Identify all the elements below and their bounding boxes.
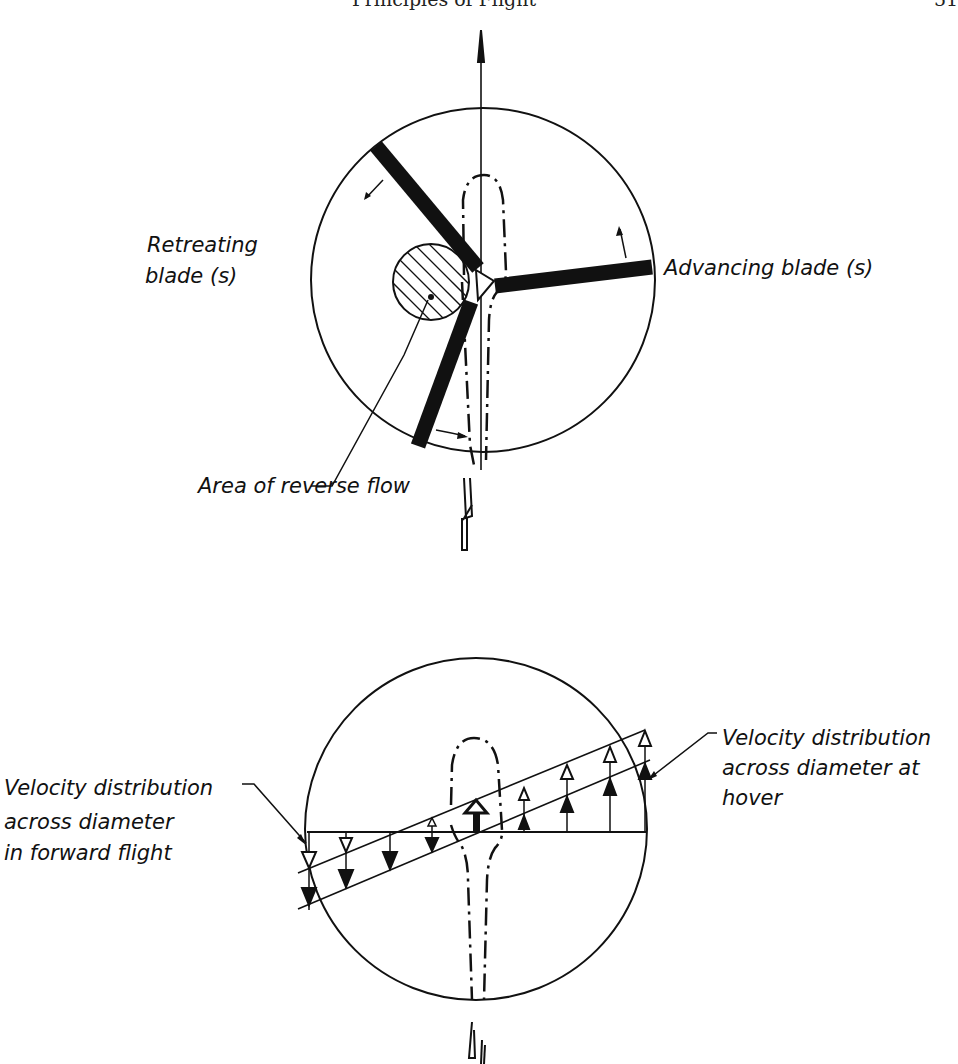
- center-stem: [473, 813, 480, 832]
- fuselage-outline-lower: [451, 738, 502, 1000]
- forward-arrow-icon: [639, 764, 651, 779]
- rotation-arrowhead-icon: [457, 432, 468, 439]
- retreating-label-line1: Retreating: [147, 233, 258, 257]
- forward-leader-line: [242, 784, 306, 843]
- fuselage-outline-lower-left: [451, 825, 472, 1000]
- advancing-label: Advancing blade (s): [662, 256, 873, 280]
- forward-flight-line-upper: [298, 730, 645, 873]
- forward-arrow-icon: [339, 870, 353, 887]
- forward-label-line2: across diameter: [4, 810, 175, 834]
- hover-arrow-icon-center: [465, 800, 487, 813]
- forward-label-line1: Velocity distribution: [4, 776, 213, 800]
- hover-arrow-icon: [340, 838, 352, 852]
- forward-arrow-icon: [604, 779, 616, 795]
- forward-arrow-icon: [383, 852, 397, 869]
- advancing-blade: [495, 267, 652, 286]
- hover-label-line3: hover: [722, 786, 784, 810]
- forward-arrow-icon: [561, 797, 573, 812]
- hover-arrow-icon: [639, 731, 651, 746]
- hover-arrow-icon: [561, 765, 573, 779]
- forward-arrow-icon: [519, 816, 529, 829]
- tail-lower: [469, 1022, 485, 1064]
- reverse-flow-dot: [428, 294, 434, 300]
- reverse-flow-leader-line: [311, 300, 428, 486]
- forward-arrow-icon: [426, 838, 438, 851]
- rotation-arrowhead-icon: [616, 226, 623, 236]
- tail-rotor: [462, 478, 472, 550]
- hover-arrow-icon: [519, 788, 529, 800]
- hover-label-line1: Velocity distribution: [722, 726, 931, 750]
- flight-direction-arrow-icon: [478, 30, 484, 62]
- rotor-disc-diagram: Retreating blade (s) Advancing blade (s)…: [145, 30, 873, 550]
- hover-arrow-icon: [604, 747, 616, 762]
- velocity-distribution-diagram: Velocity distribution across diameter in…: [4, 658, 931, 1064]
- hover-label-line2: across diameter at: [722, 756, 920, 780]
- retreating-label-line2: blade (s): [145, 264, 237, 288]
- velocity-arrows: [302, 731, 651, 910]
- reverse-flow-label: Area of reverse flow: [196, 474, 411, 498]
- forward-label-line3: in forward flight: [4, 841, 172, 865]
- rotor-hub: [476, 270, 494, 300]
- retreating-blade-lower: [418, 302, 471, 446]
- hover-leader-line: [650, 733, 717, 778]
- forward-flight-line-lower: [298, 760, 650, 909]
